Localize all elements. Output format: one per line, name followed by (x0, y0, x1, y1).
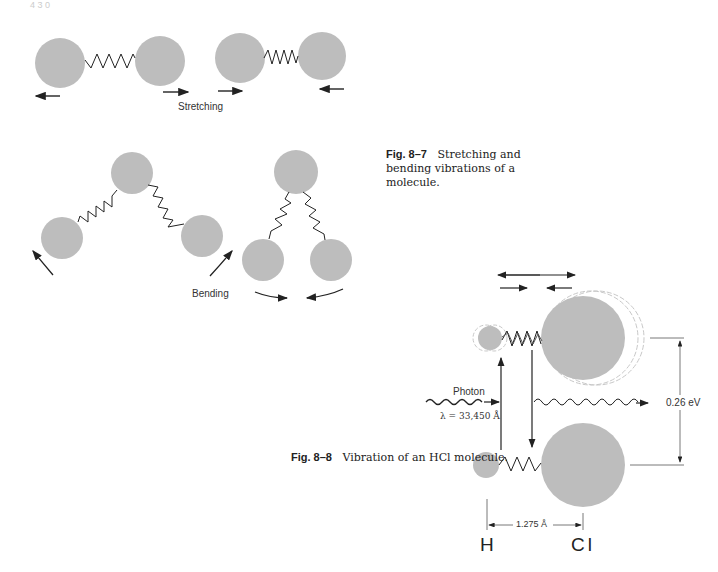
stretching-label: Stretching (178, 101, 223, 112)
hcl-excited-state (473, 275, 644, 385)
stretching-diagram-compressed (215, 32, 346, 91)
bending-diagram-closed (242, 150, 352, 298)
bending-diagram-open (33, 152, 232, 276)
bond-length-label: 1.275 Å (516, 519, 547, 529)
fig-8-8-caption: Fig. 8–8 Vibration of an HCl molecule. (291, 450, 508, 465)
fig-8-7-number: Fig. 8–7 (386, 148, 427, 160)
fig-8-8-text: Vibration of an HCl molecule. (342, 451, 507, 464)
stretching-diagram-expanded (35, 36, 188, 96)
figure-canvas (0, 0, 718, 572)
hcl-ground-state (473, 423, 625, 507)
page-header-fragment: 4 3 0 (30, 0, 50, 10)
bending-label: Bending (192, 288, 229, 299)
atom-label-cl: Cl (571, 534, 595, 556)
fig-8-7-caption: Fig. 8–7 Stretching and bending vibratio… (386, 147, 556, 190)
energy-gap-label: 0.26 eV (666, 397, 700, 408)
atom-label-h: H (480, 534, 494, 556)
photon-label: Photon (453, 386, 485, 397)
wavelength-label: λ = 33,450 Å (440, 411, 500, 421)
fig-8-8-number: Fig. 8–8 (291, 451, 332, 463)
